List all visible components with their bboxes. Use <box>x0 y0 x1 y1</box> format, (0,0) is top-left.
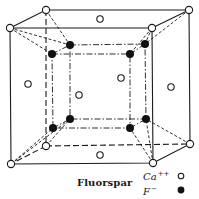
f-ion-marker <box>126 124 134 132</box>
f-ion-marker <box>141 40 149 48</box>
ca-ion-marker <box>6 24 13 31</box>
ca-ion-marker <box>168 84 174 90</box>
ca-ion-marker <box>76 92 82 98</box>
f-ion-marker <box>66 41 74 49</box>
ca-ion-marker <box>149 159 156 166</box>
legend-f-charge: − <box>151 185 157 193</box>
ca-ion-marker <box>118 75 124 81</box>
legend-f-filled-circle-icon <box>178 187 185 194</box>
ca-ion-marker <box>185 6 192 13</box>
legend-ca-label: Ca++ <box>143 169 169 182</box>
legend-ca-open-circle-icon <box>178 173 184 179</box>
legend-f-ion: F <box>143 186 150 197</box>
ca-ion-marker <box>42 6 49 13</box>
ca-ion-marker <box>25 81 31 87</box>
ca-ion-marker <box>186 140 193 147</box>
f-ion-marker <box>49 124 57 132</box>
ca-ion-marker <box>148 24 155 31</box>
ca-ion-marker <box>7 160 14 167</box>
ca-ion-marker <box>42 142 49 149</box>
ca-ion-marker <box>97 152 103 158</box>
f-ion-marker <box>48 50 56 58</box>
legend-ca-ion: Ca <box>143 171 157 182</box>
figure-caption: Fluorspar <box>77 177 132 188</box>
ca-ion-marker <box>97 16 103 22</box>
legend-ca-charge: ++ <box>158 170 170 178</box>
corner-to-inner-dashes <box>10 10 190 164</box>
legend-f-label: F− <box>143 184 157 197</box>
outer-cube-solid-edges <box>10 10 190 164</box>
f-ion-marker <box>126 50 134 58</box>
f-ion-marker <box>66 115 74 123</box>
f-ion-marker <box>142 115 150 123</box>
